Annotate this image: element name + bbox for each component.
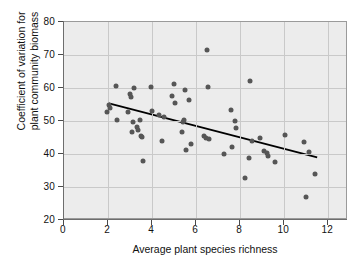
data-point xyxy=(229,108,234,113)
data-point xyxy=(233,125,238,130)
data-point xyxy=(242,176,247,181)
data-point xyxy=(184,148,189,153)
data-point xyxy=(304,194,309,199)
data-point xyxy=(207,136,212,141)
x-tick-label: 2 xyxy=(97,224,117,235)
data-point xyxy=(125,109,130,114)
y-gridline xyxy=(64,154,346,155)
data-point xyxy=(156,112,161,117)
data-point xyxy=(159,139,164,144)
data-point xyxy=(221,152,226,157)
data-point xyxy=(162,115,167,120)
y-tick-label: 70 xyxy=(33,49,55,60)
data-point xyxy=(129,94,134,99)
data-point xyxy=(108,105,113,110)
data-point xyxy=(257,135,262,140)
data-point xyxy=(248,79,253,84)
data-point xyxy=(169,94,174,99)
data-point xyxy=(301,139,306,144)
y-tick-mark xyxy=(58,186,63,187)
data-point xyxy=(141,159,146,164)
y-tick-mark xyxy=(58,120,63,121)
y-tick-mark xyxy=(58,54,63,55)
data-point xyxy=(150,109,155,114)
y-tick-label: 20 xyxy=(33,214,55,225)
data-point xyxy=(135,127,140,132)
data-point xyxy=(273,159,278,164)
x-gridline xyxy=(196,22,197,218)
data-point xyxy=(232,119,237,124)
data-point xyxy=(205,48,210,53)
data-point xyxy=(265,154,270,159)
x-tick-label: 10 xyxy=(273,224,293,235)
data-point xyxy=(140,134,145,139)
data-point xyxy=(132,85,137,90)
data-point xyxy=(113,84,118,89)
x-tick-label: 12 xyxy=(317,224,337,235)
y-gridline xyxy=(64,121,346,122)
data-point xyxy=(206,85,211,90)
y-tick-label: 40 xyxy=(33,148,55,159)
y-axis-line xyxy=(63,21,64,220)
data-point xyxy=(230,144,235,149)
y-tick-mark xyxy=(58,21,63,22)
x-gridline xyxy=(328,22,329,218)
y-tick-mark xyxy=(58,153,63,154)
data-point xyxy=(312,172,317,177)
x-axis-label: Average plant species richness xyxy=(63,243,347,255)
data-point xyxy=(246,155,251,160)
y-tick-mark xyxy=(58,219,63,220)
y-tick-label: 50 xyxy=(33,115,55,126)
data-point xyxy=(250,138,255,143)
x-gridline xyxy=(240,22,241,218)
scatter-chart-figure: Average plant species richness Coefficie… xyxy=(0,0,361,272)
x-tick-label: 6 xyxy=(185,224,205,235)
data-point xyxy=(181,118,186,123)
data-point xyxy=(104,110,109,115)
y-gridline xyxy=(64,187,346,188)
x-gridline xyxy=(152,22,153,218)
data-point xyxy=(283,133,288,138)
data-point xyxy=(187,97,192,102)
x-tick-label: 4 xyxy=(141,224,161,235)
y-tick-label: 30 xyxy=(33,181,55,192)
y-tick-mark xyxy=(58,87,63,88)
data-point xyxy=(183,87,188,92)
plot-area xyxy=(63,21,347,219)
x-tick-label: 0 xyxy=(53,224,73,235)
y-tick-label: 80 xyxy=(33,16,55,27)
data-point xyxy=(173,101,178,106)
x-gridline xyxy=(108,22,109,218)
data-point xyxy=(137,118,142,123)
data-point xyxy=(179,130,184,135)
x-tick-label: 8 xyxy=(229,224,249,235)
data-point xyxy=(172,81,177,86)
x-gridline xyxy=(284,22,285,218)
y-gridline xyxy=(64,55,346,56)
data-point xyxy=(148,85,153,90)
x-axis-line xyxy=(63,219,347,220)
data-point xyxy=(307,150,312,155)
data-point xyxy=(130,130,135,135)
data-point xyxy=(114,117,119,122)
y-tick-label: 60 xyxy=(33,82,55,93)
data-point xyxy=(188,142,193,147)
y-axis-label-line1: Coefficient of variation for xyxy=(15,0,28,161)
